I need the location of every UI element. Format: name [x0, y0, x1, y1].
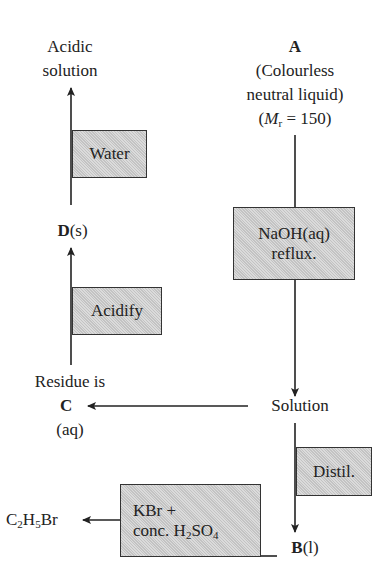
- step-kbr-h2so4: KBr + conc. H2SO4: [120, 484, 261, 557]
- compound-a-label: A (Colourless neutral liquid) (Mr = 150): [235, 35, 355, 131]
- compound-c-label: Residue is C (aq): [20, 370, 120, 442]
- step-distil: Distil.: [296, 447, 372, 496]
- acidic-solution-label: Acidic solution: [30, 35, 110, 83]
- step-naoh-reflux: NaOH(aq) reflux.: [233, 207, 355, 280]
- molar-mass: (Mr = 150): [235, 107, 355, 131]
- compound-b-label: B(l): [280, 536, 330, 560]
- step-water: Water: [72, 130, 147, 178]
- compound-d-label: D(s): [45, 219, 100, 243]
- solution-label: Solution: [250, 394, 350, 418]
- ethyl-bromide-label: C2H5Br: [6, 508, 80, 532]
- step-acidify: Acidify: [72, 287, 162, 335]
